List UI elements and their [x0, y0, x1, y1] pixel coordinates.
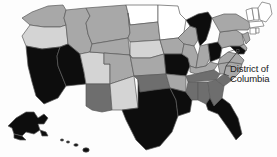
state-rhode-island[interactable] — [256, 28, 259, 33]
dc-callout-line-2: Columbia — [230, 74, 277, 84]
us-choropleth-map-figure: District of Columbia — [0, 0, 277, 157]
state-pennsylvania[interactable] — [218, 30, 244, 48]
state-hawaii-bigisland[interactable] — [83, 148, 89, 152]
state-arizona[interactable] — [86, 84, 112, 112]
state-hawaii-oahu[interactable] — [66, 141, 69, 143]
state-missouri[interactable] — [164, 54, 190, 76]
district-of-columbia-callout-label: District of Columbia — [230, 64, 277, 84]
state-connecticut[interactable] — [250, 28, 256, 34]
state-north-dakota[interactable] — [126, 5, 158, 25]
state-montana[interactable] — [86, 5, 130, 44]
state-hawaii-kauai[interactable] — [60, 139, 63, 141]
state-oregon[interactable] — [22, 25, 68, 49]
state-hawaii-maui[interactable] — [74, 144, 78, 147]
